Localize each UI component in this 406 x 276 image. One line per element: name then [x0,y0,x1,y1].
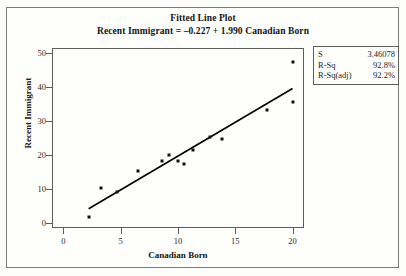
stats-label-rsq-adj: R-Sq(adj) [318,70,352,81]
data-point [136,169,139,172]
y-tick-mark [46,189,52,190]
statistics-box: S 3.46078 R-Sq 92.8% R-Sq(adj) 92.2% [313,46,399,85]
x-tick-label: 10 [163,236,193,246]
y-tick-mark [46,87,52,88]
x-axis-title: Canadian Born [52,250,304,260]
stats-value-rsq: 92.8% [373,60,395,71]
x-tick-label: 20 [278,236,308,246]
stats-value-rsq-adj: 92.2% [373,70,395,81]
data-point [182,163,185,166]
y-tick-mark [46,53,52,54]
data-point [291,60,294,63]
stats-label-rsq: R-Sq [318,60,335,71]
chart-page: Fitted Line Plot Recent Immigrant = –0.2… [0,0,406,276]
x-tick-mark [235,228,236,234]
data-point [191,149,194,152]
x-tick-mark [178,228,179,234]
x-tick-mark [63,228,64,234]
y-axis-title: Recent Immigrant [23,33,33,193]
x-tick-label: 0 [48,236,78,246]
stats-row: S 3.46078 [318,49,395,60]
chart-title: Fitted Line Plot [0,12,406,24]
data-point [100,186,103,189]
stats-value-s: 3.46078 [367,49,395,60]
data-point [266,108,269,111]
data-point [291,101,294,104]
plot-area [52,48,304,228]
y-tick-label-wrap: 0 [16,223,46,224]
data-point [116,190,119,193]
y-tick-mark [46,155,52,156]
x-tick-mark [293,228,294,234]
chart-title-block: Fitted Line Plot Recent Immigrant = –0.2… [0,12,406,38]
data-point [160,159,163,162]
data-point [87,216,90,219]
x-tick-mark [121,228,122,234]
data-point [209,135,212,138]
stats-row: R-Sq(adj) 92.2% [318,70,395,81]
y-tick-label: 0 [22,217,46,227]
fitted-regression-line [52,48,304,228]
data-point [177,159,180,162]
y-tick-mark [46,121,52,122]
x-tick-label: 15 [220,236,250,246]
chart-subtitle-equation: Recent Immigrant = –0.227 + 1.990 Canadi… [0,25,406,38]
data-point [167,153,170,156]
stats-row: R-Sq 92.8% [318,60,395,71]
stats-label-s: S [318,49,323,60]
y-tick-mark [46,223,52,224]
data-point [220,138,223,141]
x-tick-label: 5 [106,236,136,246]
